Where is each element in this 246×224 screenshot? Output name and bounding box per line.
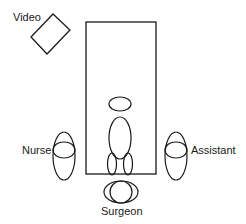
or-layout-diagram [0, 0, 246, 224]
assistant-label: Assistant [191, 145, 236, 156]
assistant-figure [165, 132, 187, 180]
surgeon-figure [104, 181, 138, 203]
nurse-label: Nurse [22, 145, 51, 156]
patient-right-leg [124, 153, 133, 175]
patient-figure [108, 97, 133, 175]
nurse-figure [53, 132, 75, 180]
surgeon-label: Surgeon [101, 206, 143, 217]
video-label: Video [13, 12, 41, 23]
operating-table [86, 22, 156, 174]
patient-head [109, 97, 131, 111]
patient-left-leg [108, 153, 117, 175]
